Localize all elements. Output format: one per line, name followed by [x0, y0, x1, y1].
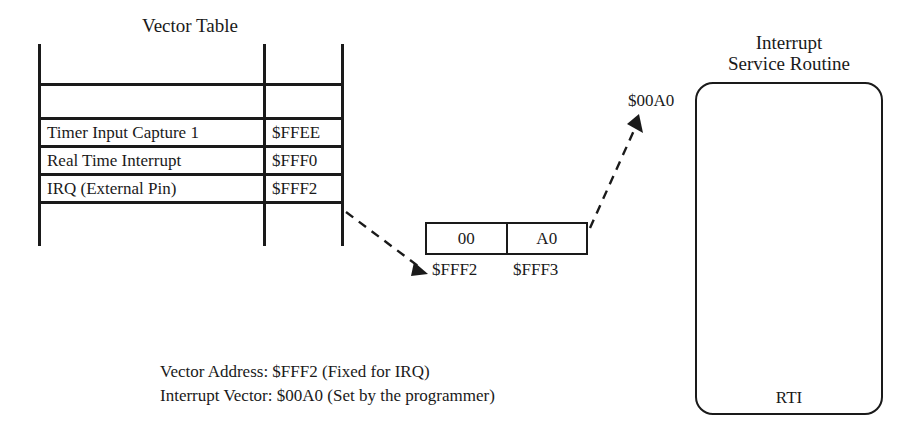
table-rule-bottom: [38, 201, 344, 204]
caption-block: Vector Address: $FFF2 (Fixed for IRQ) In…: [160, 360, 495, 408]
table-rule-2: [38, 145, 344, 148]
table-row: IRQ (External Pin): [47, 179, 176, 199]
memory-cell-low-byte: A0: [506, 224, 587, 253]
table-rule-3: [38, 173, 344, 176]
memory-cell-address-high: $FFF2: [432, 261, 477, 278]
isr-title: Interrupt Service Routine: [695, 32, 883, 74]
table-row-address: $FFF0: [272, 151, 317, 171]
table-rule-1: [38, 117, 344, 120]
table-rule-top: [38, 83, 344, 86]
table-row: Timer Input Capture 1: [47, 123, 199, 143]
vector-table: Timer Input Capture 1 $FFEE Real Time In…: [38, 44, 344, 246]
arrow-memory-to-isr-line: [590, 126, 636, 228]
arrowhead-to-isr: [627, 114, 643, 133]
caption-line-vector-address: Vector Address: $FFF2 (Fixed for IRQ): [160, 360, 495, 384]
isr-title-line-2: Service Routine: [695, 53, 883, 74]
interrupt-vector-value: $00A0: [628, 92, 674, 109]
table-row-address: $FFF2: [272, 179, 317, 199]
table-row: Real Time Interrupt: [47, 151, 181, 171]
memory-byte-cells: 00 A0: [425, 222, 588, 255]
arrow-vector-to-memory-line: [346, 212, 418, 266]
isr-box: [695, 82, 883, 415]
interrupt-vector-diagram: Vector Table Timer Input Capture 1 $FFEE…: [0, 0, 917, 445]
isr-return-instruction: RTI: [695, 389, 883, 406]
isr-title-line-1: Interrupt: [695, 32, 883, 53]
memory-cell-address-low: $FFF3: [513, 261, 558, 278]
table-row-address: $FFEE: [272, 123, 320, 143]
vector-table-title: Vector Table: [0, 16, 380, 35]
arrowhead-to-memory: [411, 262, 428, 276]
caption-line-interrupt-vector: Interrupt Vector: $00A0 (Set by the prog…: [160, 384, 495, 408]
memory-cell-high-byte: 00: [427, 224, 506, 253]
